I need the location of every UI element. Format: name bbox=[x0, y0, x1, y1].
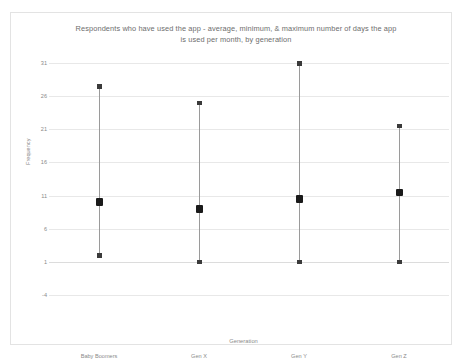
gridline bbox=[49, 295, 449, 296]
plot-area: 312621161161-4Baby BoomersGen XGen YGen … bbox=[49, 63, 449, 295]
gridline bbox=[49, 96, 449, 97]
y-tick-label: 26 bbox=[25, 93, 47, 99]
chart-frame: Respondents who have used the app - aver… bbox=[10, 12, 452, 345]
min-marker bbox=[97, 253, 102, 258]
max-marker bbox=[297, 61, 302, 66]
average-marker bbox=[196, 205, 204, 213]
y-tick-label: 6 bbox=[25, 226, 47, 232]
gridline bbox=[49, 162, 449, 163]
x-tick-label: Baby Boomers bbox=[54, 353, 144, 359]
average-marker bbox=[96, 198, 104, 206]
x-tick-label: Gen X bbox=[154, 353, 244, 359]
y-tick-label: 31 bbox=[25, 60, 47, 66]
chart-title-line-1: Respondents who have used the app - aver… bbox=[51, 23, 421, 34]
y-tick-label: 16 bbox=[25, 159, 47, 165]
average-marker bbox=[296, 195, 304, 203]
y-tick-label: -4 bbox=[25, 292, 47, 298]
x-axis-title: Generation bbox=[11, 338, 465, 344]
y-tick-label: 21 bbox=[25, 126, 47, 132]
average-marker bbox=[396, 189, 404, 197]
min-marker bbox=[397, 260, 402, 265]
y-tick-label: 1 bbox=[25, 259, 47, 265]
chart-title-line-2: is used per month, by generation bbox=[51, 34, 421, 45]
min-marker bbox=[197, 260, 202, 265]
gridline bbox=[49, 63, 449, 64]
gridline bbox=[49, 229, 449, 230]
gridline bbox=[49, 262, 449, 263]
x-tick-label: Gen Z bbox=[354, 353, 444, 359]
max-marker bbox=[397, 124, 402, 129]
y-tick-label: 11 bbox=[25, 193, 47, 199]
min-marker bbox=[297, 260, 302, 265]
chart-title: Respondents who have used the app - aver… bbox=[51, 23, 421, 45]
gridline bbox=[49, 196, 449, 197]
max-marker bbox=[197, 101, 202, 106]
max-marker bbox=[97, 84, 102, 89]
x-tick-label: Gen Y bbox=[254, 353, 344, 359]
gridline bbox=[49, 129, 449, 130]
error-bar-line bbox=[99, 86, 100, 255]
error-bar-line bbox=[199, 103, 200, 262]
error-bar-line bbox=[299, 63, 300, 262]
